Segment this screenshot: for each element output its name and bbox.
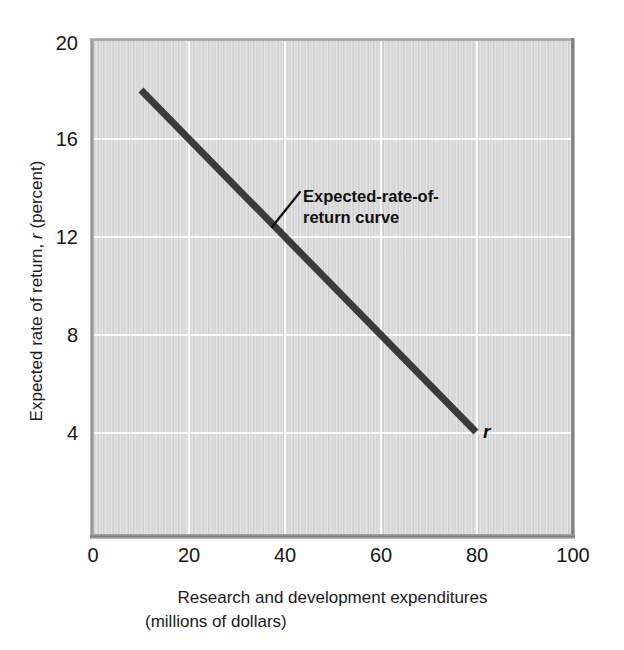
y-axis-title-symbol: r bbox=[27, 233, 46, 239]
curve-endpoint-label-r: r bbox=[483, 421, 490, 443]
xtick-label-80: 80 bbox=[466, 545, 488, 565]
xtick-label-60: 60 bbox=[370, 545, 392, 565]
y-axis-title-prefix: Expected rate of return, bbox=[27, 239, 46, 421]
xtick-label-100: 100 bbox=[556, 545, 589, 565]
gridline-x-60 bbox=[380, 41, 382, 535]
plot-border-left bbox=[90, 41, 94, 538]
plot-background-texture bbox=[93, 41, 572, 535]
xtick-label-40: 40 bbox=[274, 545, 296, 565]
figure-expected-rate-of-return: Expected-rate-of- return curve r 0 20 40… bbox=[0, 0, 624, 650]
xtick-label-20: 20 bbox=[178, 545, 200, 565]
x-axis-title: Research and development expenditures (m… bbox=[93, 586, 572, 634]
axis-x-line bbox=[90, 534, 575, 539]
curve-annotation-line-1: Expected-rate-of- bbox=[303, 186, 439, 207]
x-axis-title-line-2: (millions of dollars) bbox=[93, 610, 572, 634]
ytick-label-20: 20 bbox=[42, 33, 78, 53]
gridline-y-16 bbox=[93, 138, 572, 140]
gridline-x-20 bbox=[188, 41, 190, 535]
plot-area bbox=[93, 41, 572, 535]
y-axis-title-wrapper: Expected rate of return, r (percent) bbox=[24, 56, 50, 526]
plot-border-right bbox=[571, 38, 575, 538]
gridline-x-40 bbox=[284, 41, 286, 535]
gridline-y-8 bbox=[93, 334, 572, 336]
curve-annotation-line-2: return curve bbox=[303, 207, 439, 228]
gridline-x-80 bbox=[476, 41, 478, 535]
curve-annotation: Expected-rate-of- return curve bbox=[303, 186, 439, 228]
gridline-y-12 bbox=[93, 236, 572, 238]
y-axis-title-suffix: (percent) bbox=[27, 161, 46, 234]
xtick-label-0: 0 bbox=[87, 545, 98, 565]
plot-border-top bbox=[90, 38, 575, 41]
gridline-y-4 bbox=[93, 432, 572, 434]
x-axis-title-line-1: Research and development expenditures bbox=[93, 586, 572, 610]
y-axis-title: Expected rate of return, r (percent) bbox=[24, 56, 50, 526]
